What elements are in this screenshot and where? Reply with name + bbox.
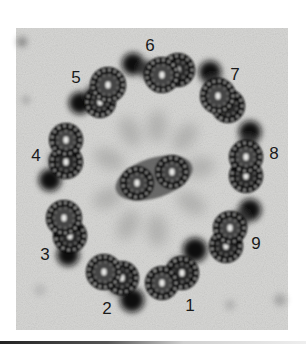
doublet-label-2: 2 [102,300,111,317]
doublet-label-1: 1 [185,297,194,314]
doublet-label-7: 7 [230,66,239,83]
doublet-label-8: 8 [269,145,278,162]
doublet-label-4: 4 [31,147,40,164]
micrograph-figure: 123456789 [0,0,306,344]
doublet-4 [49,123,83,179]
doublet-8 [229,140,263,193]
doublet-label-6: 6 [145,37,154,54]
doublet-label-3: 3 [40,246,49,263]
doublet-label-5: 5 [71,69,80,86]
doublet-label-9: 9 [251,235,260,252]
